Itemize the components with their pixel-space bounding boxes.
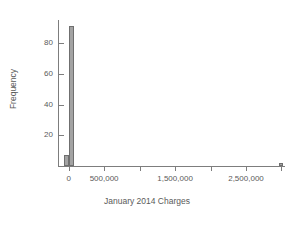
x-tick <box>175 167 176 171</box>
x-axis-line <box>58 166 285 167</box>
y-tick <box>59 43 64 44</box>
y-tick-label: 80 <box>31 39 53 47</box>
x-tick <box>281 167 282 171</box>
y-tick-label: 20 <box>31 131 53 139</box>
y-tick <box>59 105 64 106</box>
histogram-bar <box>279 163 283 166</box>
histogram-bar <box>69 26 73 166</box>
histogram-bar <box>64 155 68 166</box>
x-tick <box>69 167 70 171</box>
x-tick <box>140 167 141 171</box>
y-tick-label: 60 <box>31 70 53 78</box>
x-tick <box>104 167 105 171</box>
x-axis-title: January 2014 Charges <box>0 196 294 206</box>
y-tick <box>59 74 64 75</box>
y-axis-title: Frequency <box>8 54 18 124</box>
y-axis-line <box>58 20 59 166</box>
x-tick <box>211 167 212 171</box>
y-tick <box>59 135 64 136</box>
x-tick-label: 500,000 <box>74 175 134 183</box>
x-tick <box>246 167 247 171</box>
x-tick-label: 2,500,000 <box>216 175 276 183</box>
histogram-figure: 20406080 0500,0001,500,0002,500,000 Freq… <box>0 0 294 227</box>
y-tick-label: 40 <box>31 101 53 109</box>
x-tick-label: 1,500,000 <box>145 175 205 183</box>
